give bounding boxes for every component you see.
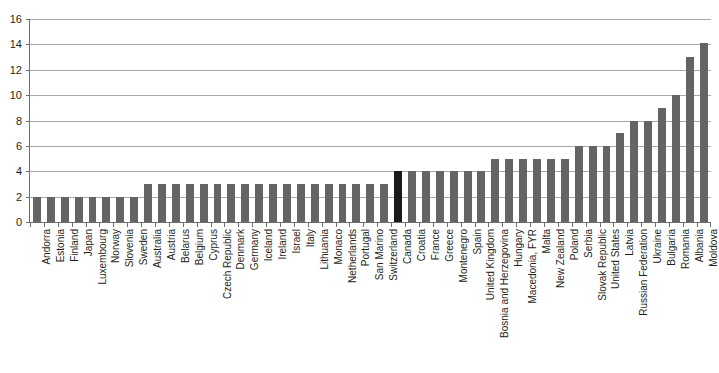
x-tick-mark bbox=[530, 223, 531, 227]
bar-slot bbox=[294, 19, 308, 222]
tick-slot bbox=[266, 223, 280, 228]
bar-slot bbox=[544, 19, 558, 222]
bar-slot bbox=[697, 19, 711, 222]
label-slot: Spain bbox=[461, 229, 475, 369]
label-slot: San Marino bbox=[363, 229, 377, 369]
x-tick-mark bbox=[447, 223, 448, 227]
tick-slot bbox=[433, 223, 447, 228]
bar bbox=[589, 146, 597, 222]
x-tick-mark bbox=[30, 223, 31, 227]
x-tick-mark bbox=[363, 223, 364, 227]
bar bbox=[33, 197, 41, 222]
bar-slot bbox=[586, 19, 600, 222]
bar-slot bbox=[86, 19, 100, 222]
y-tick-label: 4 bbox=[16, 166, 22, 177]
x-tick-mark bbox=[710, 223, 711, 227]
tick-slot bbox=[86, 223, 100, 228]
bar-slot bbox=[224, 19, 238, 222]
bar bbox=[616, 133, 624, 222]
bar-slot bbox=[516, 19, 530, 222]
x-tick-mark bbox=[655, 223, 656, 227]
bar-slot bbox=[349, 19, 363, 222]
x-tick-mark bbox=[544, 223, 545, 227]
bar bbox=[241, 184, 249, 222]
label-slot: Macedonia, FYR bbox=[516, 229, 530, 369]
tick-slot bbox=[238, 223, 252, 228]
x-tick-mark bbox=[683, 223, 684, 227]
tick-slot bbox=[58, 223, 72, 228]
tick-slot bbox=[641, 223, 655, 228]
bar-slot bbox=[266, 19, 280, 222]
x-tick-mark bbox=[238, 223, 239, 227]
label-slot: Moldova bbox=[697, 229, 711, 369]
x-tick-mark bbox=[58, 223, 59, 227]
bar bbox=[283, 184, 291, 222]
bar bbox=[505, 159, 513, 222]
bar bbox=[214, 184, 222, 222]
bar-slot bbox=[419, 19, 433, 222]
bar bbox=[408, 171, 416, 222]
bar-slot bbox=[363, 19, 377, 222]
bar-slot bbox=[488, 19, 502, 222]
x-tick-mark bbox=[322, 223, 323, 227]
tick-slot bbox=[405, 223, 419, 228]
label-slot: Monaco bbox=[322, 229, 336, 369]
x-axis-ticks bbox=[30, 223, 711, 228]
bar bbox=[130, 197, 138, 222]
y-tick-label: 14 bbox=[10, 39, 22, 50]
tick-slot bbox=[99, 223, 113, 228]
tick-slot bbox=[447, 223, 461, 228]
tick-slot bbox=[183, 223, 197, 228]
bar-slot bbox=[655, 19, 669, 222]
x-tick-mark bbox=[419, 223, 420, 227]
x-tick-mark bbox=[280, 223, 281, 227]
tick-slot bbox=[669, 223, 683, 228]
tick-slot bbox=[613, 223, 627, 228]
x-tick-mark bbox=[405, 223, 406, 227]
bar-slot bbox=[169, 19, 183, 222]
tick-slot bbox=[280, 223, 294, 228]
x-tick-mark bbox=[141, 223, 142, 227]
bar bbox=[352, 184, 360, 222]
label-slot: Estonia bbox=[44, 229, 58, 369]
label-slot: United Kingdom bbox=[475, 229, 489, 369]
bar-slot bbox=[627, 19, 641, 222]
bar bbox=[464, 171, 472, 222]
y-tick-label: 10 bbox=[10, 90, 22, 101]
label-slot: Luxembourg bbox=[86, 229, 100, 369]
bar bbox=[477, 171, 485, 222]
tick-slot bbox=[363, 223, 377, 228]
bar-series bbox=[30, 19, 711, 222]
bar bbox=[297, 184, 305, 222]
bar bbox=[116, 197, 124, 222]
bar-slot bbox=[641, 19, 655, 222]
label-slot: Austria bbox=[155, 229, 169, 369]
label-slot: Poland bbox=[558, 229, 572, 369]
bar bbox=[630, 121, 638, 223]
bar-slot bbox=[280, 19, 294, 222]
tick-slot bbox=[308, 223, 322, 228]
bar bbox=[227, 184, 235, 222]
x-tick-label: Moldova bbox=[709, 229, 719, 267]
x-axis-labels: AndorraEstoniaFinlandJapanLuxembourgNorw… bbox=[30, 229, 711, 369]
label-slot: Portugal bbox=[349, 229, 363, 369]
bar-slot bbox=[502, 19, 516, 222]
tick-slot bbox=[683, 223, 697, 228]
tick-slot bbox=[558, 223, 572, 228]
bar bbox=[200, 184, 208, 222]
tick-slot bbox=[44, 223, 58, 228]
tick-slot bbox=[294, 223, 308, 228]
tick-slot bbox=[516, 223, 530, 228]
x-tick-mark bbox=[488, 223, 489, 227]
x-tick-mark bbox=[72, 223, 73, 227]
bar-slot bbox=[72, 19, 86, 222]
x-tick-mark bbox=[600, 223, 601, 227]
bar bbox=[672, 95, 680, 222]
tick-slot bbox=[72, 223, 86, 228]
bar bbox=[172, 184, 180, 222]
bar bbox=[519, 159, 527, 222]
bar-slot bbox=[558, 19, 572, 222]
x-tick-mark bbox=[349, 223, 350, 227]
label-slot: Croatia bbox=[405, 229, 419, 369]
bar-slot bbox=[377, 19, 391, 222]
